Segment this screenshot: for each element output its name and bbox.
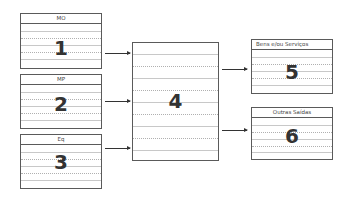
row-rule [133, 78, 218, 79]
row-rule [252, 85, 332, 86]
row-rule [133, 54, 218, 55]
output-number-6: 6 [252, 124, 332, 148]
row-rule [21, 120, 101, 121]
row-rule [133, 138, 218, 139]
input-label-mp: MP [21, 75, 101, 85]
input-box-eq: Eq 3 [20, 134, 102, 189]
process-box: 4 [132, 42, 219, 161]
arrow-4-to-5 [222, 69, 247, 70]
output-number-5: 5 [252, 60, 332, 84]
arrow-1-to-4 [105, 53, 130, 54]
row-rule [133, 150, 218, 151]
input-number-3: 3 [21, 150, 101, 174]
arrow-4-to-6 [222, 130, 247, 131]
input-box-mo: MO 1 [20, 13, 102, 69]
input-label-eq: Eq [21, 135, 101, 145]
process-number-4: 4 [133, 89, 218, 113]
arrow-2-to-4 [105, 101, 130, 102]
row-rule [21, 180, 101, 181]
row-rule [133, 126, 218, 127]
input-number-1: 1 [21, 36, 101, 60]
output-label-goods-services: Bens e/ou Serviços [252, 40, 332, 50]
input-number-2: 2 [21, 92, 101, 116]
input-box-mp: MP 2 [20, 74, 102, 129]
row-rule [252, 152, 332, 153]
output-label-other-outputs: Outras Saídas [252, 108, 332, 118]
arrow-3-to-4 [105, 148, 130, 149]
row-rule [133, 114, 218, 115]
row-rule [252, 57, 332, 58]
input-label-mo: MO [21, 14, 101, 24]
output-box-goods-services: Bens e/ou Serviços 5 [251, 39, 333, 94]
output-box-other-outputs: Outras Saídas 6 [251, 107, 333, 160]
row-rule [133, 66, 218, 67]
row-rule [21, 31, 101, 32]
